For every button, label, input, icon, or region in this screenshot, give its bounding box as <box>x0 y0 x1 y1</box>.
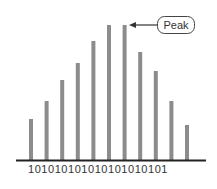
bar <box>123 25 127 160</box>
peak-label: Peak <box>163 19 189 31</box>
bar <box>45 101 49 160</box>
peak-annotation: Peak <box>129 17 195 34</box>
bar-diagram: Peak <box>0 0 217 189</box>
bar <box>154 71 158 160</box>
bar <box>185 125 189 160</box>
arrow-head-icon <box>129 22 136 28</box>
bar <box>91 41 95 160</box>
binary-axis-label: 101010101010101010101 <box>28 163 168 175</box>
bar <box>29 119 33 160</box>
bar <box>76 63 80 160</box>
bars-group <box>29 25 189 160</box>
bar <box>60 80 64 160</box>
bar <box>169 101 173 160</box>
bar <box>107 25 111 160</box>
bar <box>138 52 142 160</box>
